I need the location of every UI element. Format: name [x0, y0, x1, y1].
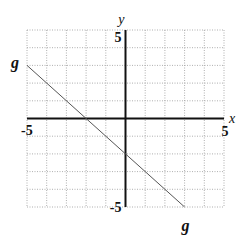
x-axis-label: x	[228, 111, 236, 126]
coordinate-plane: y x 5 -5 -5 5 g g	[0, 0, 247, 242]
y-min-tick-label: -5	[110, 200, 122, 215]
y-axis-label: y	[116, 12, 125, 27]
y-max-tick-label: 5	[115, 30, 122, 45]
line-label-start: g	[10, 54, 19, 72]
x-max-tick-label: 5	[222, 124, 229, 139]
line-label-end: g	[181, 217, 190, 235]
x-min-tick-label: -5	[21, 123, 33, 138]
axes	[27, 30, 224, 207]
